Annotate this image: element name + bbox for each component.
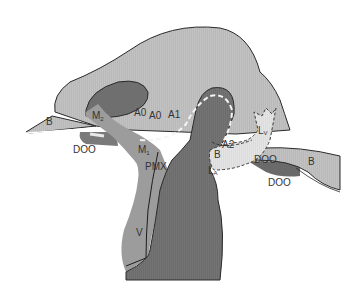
- label-beak-right: B: [308, 156, 315, 167]
- label-doo-right: DOO: [268, 177, 291, 188]
- label-a1: A1: [168, 109, 181, 120]
- anatomical-diagram: B DOO M2 A0 A0 A1 M1 PMX V A2 B LA LV DO…: [0, 0, 364, 302]
- label-pmx: PMX: [145, 161, 167, 172]
- label-v: V: [136, 227, 143, 238]
- label-a2: A2: [222, 139, 235, 150]
- label-doo-left: DOO: [73, 144, 96, 155]
- label-doo-inner: DOO: [254, 154, 277, 165]
- label-beak-left: B: [46, 116, 53, 127]
- label-a0-first: A0: [134, 107, 147, 118]
- label-a0-second: A0: [149, 110, 162, 121]
- label-b-inner: B: [214, 149, 221, 160]
